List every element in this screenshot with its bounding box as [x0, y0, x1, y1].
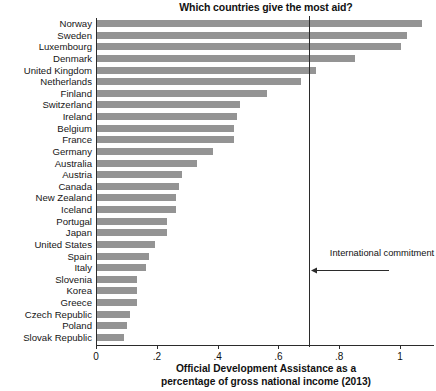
bar	[97, 20, 422, 27]
bar-row	[97, 101, 240, 108]
category-label: Spain	[0, 251, 92, 262]
bar-row	[97, 160, 197, 167]
bar-row	[97, 125, 234, 132]
x-tick-mark	[278, 345, 279, 349]
category-label: United States	[0, 239, 92, 250]
x-tick-label: 1	[380, 351, 420, 362]
category-label: Netherlands	[0, 76, 92, 87]
category-label: Germany	[0, 146, 92, 157]
x-tick-label: .2	[137, 351, 177, 362]
x-tick-label: .8	[319, 351, 359, 362]
bar-row	[97, 113, 237, 120]
bar	[97, 206, 176, 213]
x-tick-mark	[157, 345, 158, 349]
bar	[97, 322, 127, 329]
x-axis-title-line1: Official Development Assistance as a	[96, 362, 436, 375]
bar	[97, 55, 355, 62]
annotation-arrow-icon	[311, 260, 389, 267]
category-label: Finland	[0, 88, 92, 99]
category-label: Slovenia	[0, 274, 92, 285]
category-label: Italy	[0, 262, 92, 273]
x-tick-mark	[400, 345, 401, 349]
bar-row	[97, 55, 355, 62]
bar-row	[97, 183, 179, 190]
plot-area: NorwaySwedenLuxembourgDenmarkUnited King…	[96, 18, 436, 345]
category-label: Australia	[0, 158, 92, 169]
bar	[97, 67, 316, 74]
bar-row	[97, 276, 137, 283]
x-tick-mark	[96, 345, 97, 349]
bar	[97, 43, 401, 50]
category-label: Luxembourg	[0, 41, 92, 52]
bar-row	[97, 206, 176, 213]
category-label: Portugal	[0, 216, 92, 227]
category-label: Canada	[0, 181, 92, 192]
bar-row	[97, 171, 182, 178]
bar-row	[97, 136, 234, 143]
category-label: Japan	[0, 227, 92, 238]
category-label: Korea	[0, 285, 92, 296]
category-label: Iceland	[0, 204, 92, 215]
x-tick-label: .4	[198, 351, 238, 362]
bar	[97, 113, 237, 120]
category-label: Austria	[0, 169, 92, 180]
category-label: Ireland	[0, 111, 92, 122]
x-axis-title-line2: percentage of gross national income (201…	[96, 375, 436, 388]
bar	[97, 334, 124, 341]
x-tick-label: .6	[258, 351, 298, 362]
x-axis-title: Official Development Assistance as a per…	[96, 362, 436, 388]
bar-row	[97, 311, 130, 318]
bar	[97, 253, 149, 260]
bar-row	[97, 241, 155, 248]
bar-row	[97, 229, 167, 236]
bar-row	[97, 299, 137, 306]
bar	[97, 241, 155, 248]
bar	[97, 229, 167, 236]
category-label: Sweden	[0, 30, 92, 41]
bar	[97, 276, 137, 283]
bar	[97, 287, 137, 294]
bar-row	[97, 253, 149, 260]
bar	[97, 148, 213, 155]
chart-title: Which countries give the most aid?	[96, 1, 436, 13]
bar	[97, 32, 407, 39]
bar-row	[97, 148, 213, 155]
bar	[97, 78, 301, 85]
bar	[97, 218, 167, 225]
bar-row	[97, 334, 124, 341]
category-label: Poland	[0, 320, 92, 331]
bar	[97, 299, 137, 306]
category-label: Czech Republic	[0, 309, 92, 320]
category-label: United Kingdom	[0, 65, 92, 76]
bar-row	[97, 78, 301, 85]
bar	[97, 136, 234, 143]
bar-row	[97, 218, 167, 225]
x-tick-mark	[339, 345, 340, 349]
category-label: New Zealand	[0, 192, 92, 203]
bar-row	[97, 67, 316, 74]
category-label: Belgium	[0, 123, 92, 134]
bar-row	[97, 90, 267, 97]
bar	[97, 90, 267, 97]
category-label: Slovak Republic	[0, 332, 92, 343]
x-axis-line	[96, 345, 434, 346]
bar-row	[97, 20, 422, 27]
bar-row	[97, 32, 407, 39]
bar	[97, 160, 197, 167]
x-tick-mark	[218, 345, 219, 349]
bar	[97, 101, 240, 108]
bar	[97, 311, 130, 318]
aid-bar-chart: Which countries give the most aid? Norwa…	[0, 0, 436, 391]
category-label: Denmark	[0, 53, 92, 64]
international-commitment-line	[309, 16, 310, 347]
international-commitment-label: International commitment	[330, 248, 434, 258]
category-label: France	[0, 134, 92, 145]
category-label: Norway	[0, 18, 92, 29]
bar	[97, 194, 176, 201]
bar-row	[97, 194, 176, 201]
bar-row	[97, 43, 401, 50]
bar	[97, 171, 182, 178]
bar	[97, 183, 179, 190]
bar	[97, 264, 146, 271]
bar-row	[97, 264, 146, 271]
